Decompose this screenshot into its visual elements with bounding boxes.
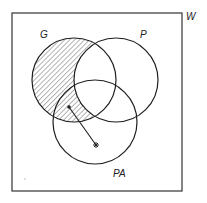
set-p-label: P [140, 29, 147, 40]
shaded-region [0, 0, 207, 203]
speck [24, 178, 26, 180]
set-g-label: G [40, 29, 48, 40]
set-pa-label: PA [113, 168, 126, 179]
venn-diagram: W G P PA [0, 0, 207, 203]
universe-label: W [186, 11, 197, 22]
arrow-start-dot-icon [67, 105, 71, 109]
